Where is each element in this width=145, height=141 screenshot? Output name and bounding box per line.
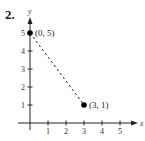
y-tick-label: 1 [21,101,25,110]
y-tick-labels: 1 2 3 4 5 [21,29,25,110]
y-axis-label: y [27,7,32,16]
dashed-segment [30,33,84,105]
x-axis-arrow-icon [131,121,138,126]
y-tick-label: 3 [21,65,25,74]
x-tick-labels: 1 2 3 4 5 [46,127,122,136]
point-0-5 [27,30,33,36]
x-tick-label: 2 [64,127,68,136]
x-tick-label: 4 [100,127,104,136]
y-tick-label: 2 [21,83,25,92]
x-tick-label: 3 [82,127,86,136]
x-axis-label: x [139,119,144,128]
y-axis-arrow-icon [28,17,33,24]
point-3-1 [81,102,87,108]
point-label: (3, 1) [89,100,109,110]
coordinate-plot: 1 2 3 4 5 1 2 3 4 5 x y (0, 5) (3, 1) [0,0,145,141]
x-tick-label: 1 [46,127,50,136]
y-tick-label: 5 [21,29,25,38]
point-label: (0, 5) [35,28,55,38]
y-tick-label: 4 [21,47,25,56]
x-tick-label: 5 [118,127,122,136]
